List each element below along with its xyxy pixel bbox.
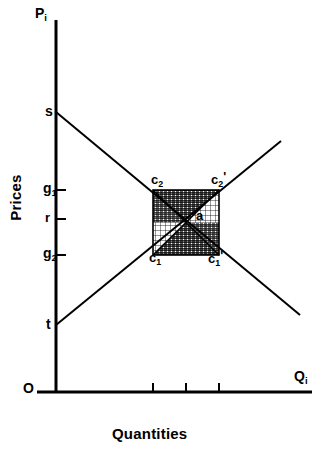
x-axis-title: Quantities [112, 426, 187, 441]
origin-label: O [23, 381, 34, 395]
point-label-a: a [196, 209, 203, 222]
y-tick-label-g1: g1 [43, 181, 57, 198]
y-axis-title: Prices [8, 174, 23, 220]
point-label-c2: c2 [151, 173, 163, 189]
y-axis-symbol: Pi [35, 6, 47, 23]
x-axis-symbol: Qi [294, 369, 308, 386]
figure-canvas: Pi Qi O s g1 r g2 t Prices Quantities c2… [0, 0, 329, 457]
demand-curve [56, 112, 300, 315]
point-label-c1-prime: c1' [208, 250, 223, 268]
point-label-c2-prime: c2' [211, 171, 226, 189]
y-tick-label-r: r [45, 211, 50, 224]
supply-curve [56, 141, 281, 325]
y-tick-label-s: s [45, 104, 53, 118]
y-tick-label-t: t [46, 317, 51, 331]
point-label-c1: c1 [149, 251, 161, 267]
y-tick-label-g2: g2 [43, 246, 57, 263]
diagram-svg [0, 0, 329, 457]
